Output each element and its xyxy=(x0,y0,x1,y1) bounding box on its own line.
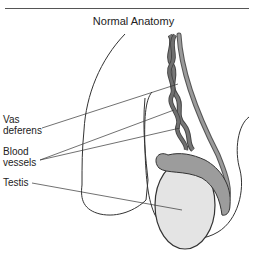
anatomy-diagram: Normal Anatomy Vas deferens Blood vessel… xyxy=(0,0,267,273)
penis-outline xyxy=(82,34,148,215)
anatomy-illustration xyxy=(0,0,267,273)
label-blood-vessels: Blood vessels xyxy=(3,146,36,168)
label-testis: Testis xyxy=(3,177,29,188)
label-vas-deferens: Vas deferens xyxy=(3,114,42,136)
